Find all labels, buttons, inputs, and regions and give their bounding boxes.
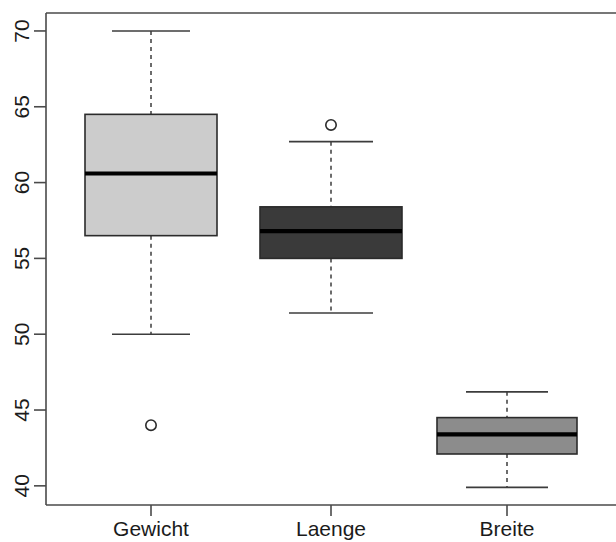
y-tick-label: 70: [10, 19, 33, 42]
y-axis: 40455055606570: [10, 19, 46, 497]
x-axis-label-gewicht: Gewicht: [113, 517, 189, 540]
y-tick-label: 65: [11, 95, 34, 118]
x-axis-label-breite: Breite: [480, 517, 535, 540]
box-laenge: [260, 120, 402, 313]
x-axis-label-laenge: Laenge: [296, 517, 366, 540]
x-axis: GewichtLaengeBreite: [113, 505, 534, 540]
box-breite: [437, 392, 577, 488]
boxplot-figure: 40455055606570 GewichtLaengeBreite: [0, 0, 616, 542]
y-tick-label: 55: [11, 247, 34, 270]
box-gewicht: [85, 31, 217, 430]
y-tick-label: 40: [11, 474, 34, 497]
box-series: [85, 31, 577, 487]
boxplot-canvas: 40455055606570 GewichtLaengeBreite: [0, 0, 616, 542]
outlier-point: [146, 420, 156, 430]
y-tick-label: 60: [11, 171, 34, 194]
outlier-point: [326, 120, 336, 130]
y-tick-label: 45: [11, 398, 34, 421]
y-tick-label: 50: [11, 323, 34, 346]
